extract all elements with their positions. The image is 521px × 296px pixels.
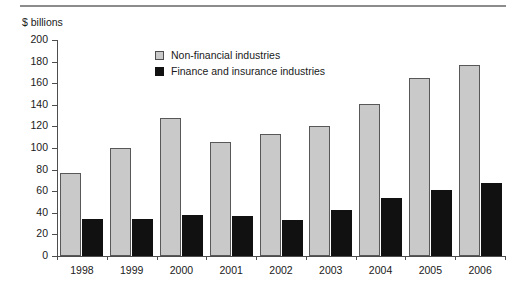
legend-label-non-financial: Non-financial industries: [171, 49, 280, 61]
y-axis-tick-label: 180: [20, 56, 48, 67]
y-axis-tick: [52, 213, 58, 214]
bar-2006-series-2: [481, 183, 502, 256]
chart-legend: Non-financial industries Finance and ins…: [155, 48, 325, 80]
y-axis-tick: [52, 83, 58, 84]
y-axis-tick-label: 60: [20, 185, 48, 196]
legend-item-finance-insurance: Finance and insurance industries: [155, 64, 325, 78]
y-axis-tick-label: 40: [20, 207, 48, 218]
bar-1999-series-2: [132, 219, 153, 256]
y-axis-tick-label-wrap: 160: [16, 77, 48, 88]
y-axis-tick-label-wrap: 0: [16, 250, 48, 261]
x-axis-tick: [57, 256, 58, 260]
x-axis-tick-label-2003: 2003: [306, 264, 356, 276]
y-axis-tick: [52, 62, 58, 63]
x-axis-tick-label-2001: 2001: [206, 264, 256, 276]
bar-2005-series-2: [431, 190, 452, 256]
y-axis-tick: [52, 148, 58, 149]
bar-1999-series-1: [110, 148, 131, 256]
legend-swatch-icon-non-financial: [155, 51, 164, 60]
y-axis-tick-label: 120: [20, 120, 48, 131]
bar-1998-series-1: [60, 173, 81, 256]
bar-2005-series-1: [409, 78, 430, 256]
bar-2000-series-2: [182, 215, 203, 256]
y-axis-tick-label-wrap: 180: [16, 56, 48, 67]
y-axis-tick-label: 100: [20, 142, 48, 153]
x-axis-tick: [505, 256, 506, 260]
bar-2001-series-2: [232, 216, 253, 256]
y-axis-tick-label-wrap: 20: [16, 228, 48, 239]
bar-2000-series-1: [160, 118, 181, 256]
x-axis-tick-label-2005: 2005: [405, 264, 455, 276]
y-axis-tick-label-wrap: 140: [16, 99, 48, 110]
y-axis-tick: [52, 126, 58, 127]
x-axis-tick: [256, 256, 257, 260]
x-axis-tick: [405, 256, 406, 260]
bar-2004-series-2: [381, 198, 402, 256]
plot-area: 0204060801001201401601802001998199920002…: [0, 0, 521, 296]
x-axis-tick: [356, 256, 357, 260]
chart-figure: $ billions 02040608010012014016018020019…: [0, 0, 521, 296]
x-axis-tick-label-2004: 2004: [356, 264, 406, 276]
bar-2003-series-1: [309, 126, 330, 256]
y-axis-tick-label: 200: [20, 34, 48, 45]
y-axis-tick-label: 20: [20, 228, 48, 239]
x-axis-tick-label-2002: 2002: [256, 264, 306, 276]
y-axis-tick-label: 0: [20, 250, 48, 261]
y-axis-tick-label-wrap: 100: [16, 142, 48, 153]
y-axis-tick-label: 140: [20, 99, 48, 110]
x-axis-tick: [107, 256, 108, 260]
x-axis-line: [57, 256, 505, 257]
y-axis-tick: [52, 170, 58, 171]
y-axis-tick-label-wrap: 120: [16, 120, 48, 131]
bar-2002-series-2: [282, 220, 303, 256]
x-axis-tick: [306, 256, 307, 260]
x-axis-tick-label-1998: 1998: [57, 264, 107, 276]
y-axis-tick-label: 160: [20, 77, 48, 88]
y-axis-tick: [52, 40, 58, 41]
bar-2001-series-1: [210, 142, 231, 256]
x-axis-tick: [206, 256, 207, 260]
y-axis-tick-label-wrap: 200: [16, 34, 48, 45]
y-axis-tick: [52, 234, 58, 235]
legend-item-non-financial: Non-financial industries: [155, 48, 325, 62]
y-axis-tick-label-wrap: 40: [16, 207, 48, 218]
y-axis-tick-label: 80: [20, 164, 48, 175]
y-axis-tick: [52, 191, 58, 192]
legend-label-finance-insurance: Finance and insurance industries: [171, 65, 325, 77]
bar-2006-series-1: [459, 65, 480, 256]
x-axis-tick: [157, 256, 158, 260]
x-axis-tick-label-2006: 2006: [455, 264, 505, 276]
bar-2003-series-2: [331, 210, 352, 256]
x-axis-tick-label-1999: 1999: [107, 264, 157, 276]
bar-2004-series-1: [359, 104, 380, 256]
x-axis-tick-label-2000: 2000: [157, 264, 207, 276]
y-axis-tick-label-wrap: 80: [16, 164, 48, 175]
x-axis-tick: [455, 256, 456, 260]
bar-1998-series-2: [82, 219, 103, 256]
y-axis-tick-label-wrap: 60: [16, 185, 48, 196]
y-axis-tick: [52, 105, 58, 106]
bar-2002-series-1: [260, 134, 281, 256]
legend-swatch-icon-finance-insurance: [155, 67, 164, 76]
